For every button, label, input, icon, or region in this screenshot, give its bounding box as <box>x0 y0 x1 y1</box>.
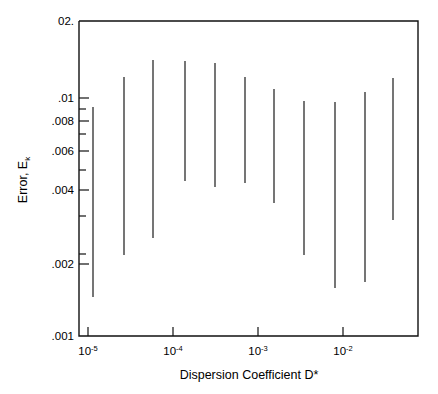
x-axis-title: Dispersion Coefficient D* <box>180 368 319 382</box>
axis-frame <box>79 21 418 336</box>
x-tick-label: 10-4 <box>163 344 182 357</box>
x-tick-label: 10-5 <box>78 344 97 357</box>
y-tick-label: .006 <box>52 145 74 157</box>
y-tick-label: .01 <box>58 92 74 104</box>
y-tick-label: 02. <box>58 15 74 27</box>
x-axis-ticks <box>88 327 343 336</box>
y-tick-label: .002 <box>52 258 74 270</box>
y-tick-labels: 02. .01 .008 .006 .004 .002 .001 <box>52 15 75 342</box>
plot-svg: 02. .01 .008 .006 .004 .002 .001 10-5 10… <box>0 0 438 394</box>
x-tick-label: 10-3 <box>248 344 267 357</box>
y-axis-title: Error, Ek <box>16 156 32 203</box>
chart-figure: 02. .01 .008 .006 .004 .002 .001 10-5 10… <box>0 0 438 394</box>
x-tick-label: 10-2 <box>333 344 352 357</box>
y-tick-label: .004 <box>52 184 75 196</box>
y-axis-ticks <box>79 98 89 264</box>
y-tick-label: .001 <box>52 330 74 342</box>
data-bars <box>93 60 393 297</box>
y-tick-label: .008 <box>52 115 74 127</box>
x-tick-labels: 10-5 10-4 10-3 10-2 <box>78 344 352 357</box>
